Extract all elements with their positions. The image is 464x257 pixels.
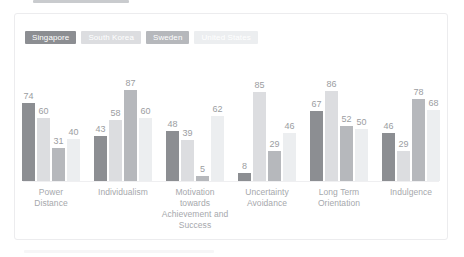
bar-sweden[interactable]: 29 xyxy=(268,59,281,181)
bar-singapore[interactable]: 8 xyxy=(238,59,251,181)
category-axis-label-line: towards xyxy=(180,198,210,208)
bar-united-states[interactable]: 46 xyxy=(283,59,296,181)
bar-group: 74603140PowerDistance xyxy=(15,59,87,239)
bar-group-bars: 46297868 xyxy=(375,59,447,181)
bar-rect xyxy=(238,173,251,181)
bar-sweden[interactable]: 87 xyxy=(124,59,137,181)
bar-group-bars: 74603140 xyxy=(15,59,87,181)
category-axis-label-line: Long Term xyxy=(319,187,359,197)
category-axis-label-line: Orientation xyxy=(318,198,360,208)
bar-value-label: 5 xyxy=(200,165,205,176)
bar-value-label: 68 xyxy=(428,99,438,110)
bar-value-label: 85 xyxy=(254,81,264,92)
bar-value-label: 78 xyxy=(413,88,423,99)
category-axis-label-line: Power xyxy=(39,187,63,197)
bar-united-states[interactable]: 40 xyxy=(67,59,80,181)
category-axis-label-line: Motivation xyxy=(175,187,214,197)
bar-value-label: 86 xyxy=(326,80,336,91)
bar-singapore[interactable]: 46 xyxy=(382,59,395,181)
bar-rect xyxy=(310,111,323,181)
bar-rect xyxy=(325,91,338,181)
bar-south-korea[interactable]: 85 xyxy=(253,59,266,181)
category-axis-label-line: Distance xyxy=(34,198,67,208)
bar-south-korea[interactable]: 86 xyxy=(325,59,338,181)
bar-value-label: 60 xyxy=(38,107,48,118)
legend-item-label: Singapore xyxy=(32,34,69,42)
bar-rect xyxy=(427,110,440,181)
legend-item-united-states[interactable]: United States xyxy=(194,31,257,44)
bar-group: 8852946UncertaintyAvoidance xyxy=(231,59,303,239)
bottom-cutoff-text xyxy=(24,250,214,253)
bar-singapore[interactable]: 43 xyxy=(94,59,107,181)
bar-group: 4839562MotivationtowardsAchievement andS… xyxy=(159,59,231,239)
bar-rect xyxy=(22,103,35,181)
bar-singapore[interactable]: 67 xyxy=(310,59,323,181)
bar-rect xyxy=(37,118,50,181)
bar-group: 46297868Indulgence xyxy=(375,59,447,239)
category-axis-label-line: Success xyxy=(179,220,211,230)
bar-rect xyxy=(52,148,65,181)
legend-item-south-korea[interactable]: South Korea xyxy=(81,31,141,44)
page-root: SingaporeSouth KoreaSwedenUnited States … xyxy=(0,0,464,257)
bar-rect xyxy=(166,131,179,181)
bar-rect xyxy=(211,116,224,181)
legend-item-sweden[interactable]: Sweden xyxy=(146,31,190,44)
bar-value-label: 29 xyxy=(269,140,279,151)
bar-south-korea[interactable]: 60 xyxy=(37,59,50,181)
bar-value-label: 43 xyxy=(95,125,105,136)
category-axis-label-line: Individualism xyxy=(98,187,148,197)
chart-legend: SingaporeSouth KoreaSwedenUnited States xyxy=(25,31,258,44)
bar-south-korea[interactable]: 39 xyxy=(181,59,194,181)
bar-value-label: 62 xyxy=(212,105,222,116)
top-cutoff-sliver xyxy=(33,0,129,3)
bar-group-bars: 8852946 xyxy=(231,59,303,181)
bar-sweden[interactable]: 31 xyxy=(52,59,65,181)
category-axis-label-line: Achievement and xyxy=(162,209,228,219)
legend-item-label: South Korea xyxy=(88,34,134,42)
bar-rect xyxy=(412,99,425,181)
bar-sweden[interactable]: 5 xyxy=(196,59,209,181)
bar-rect xyxy=(397,151,410,181)
bar-united-states[interactable]: 62 xyxy=(211,59,224,181)
category-axis-label-line: Avoidance xyxy=(247,198,287,208)
bar-value-label: 60 xyxy=(140,107,150,118)
bar-singapore[interactable]: 74 xyxy=(22,59,35,181)
bar-united-states[interactable]: 50 xyxy=(355,59,368,181)
bar-value-label: 46 xyxy=(284,122,294,133)
bar-singapore[interactable]: 48 xyxy=(166,59,179,181)
bar-value-label: 87 xyxy=(125,79,135,90)
bar-rect xyxy=(253,92,266,181)
bar-rect xyxy=(181,140,194,181)
bar-value-label: 58 xyxy=(110,109,120,120)
chart-card: SingaporeSouth KoreaSwedenUnited States … xyxy=(14,13,448,240)
bar-group-bars: 67865250 xyxy=(303,59,375,181)
bar-rect xyxy=(124,90,137,181)
bar-sweden[interactable]: 78 xyxy=(412,59,425,181)
bar-rect xyxy=(283,133,296,181)
bar-value-label: 48 xyxy=(167,120,177,131)
bar-united-states[interactable]: 60 xyxy=(139,59,152,181)
bar-value-label: 31 xyxy=(53,137,63,148)
bar-group: 67865250Long TermOrientation xyxy=(303,59,375,239)
bar-value-label: 52 xyxy=(341,115,351,126)
bar-sweden[interactable]: 52 xyxy=(340,59,353,181)
bar-south-korea[interactable]: 29 xyxy=(397,59,410,181)
bar-value-label: 39 xyxy=(182,129,192,140)
legend-item-singapore[interactable]: Singapore xyxy=(25,31,76,44)
chart-plot-area: 74603140PowerDistance43588760Individuali… xyxy=(15,59,447,239)
bar-group-bars: 4839562 xyxy=(159,59,231,181)
bar-value-label: 40 xyxy=(68,128,78,139)
bar-rect xyxy=(196,176,209,181)
bar-united-states[interactable]: 68 xyxy=(427,59,440,181)
bar-group-bars: 43588760 xyxy=(87,59,159,181)
bar-value-label: 67 xyxy=(311,100,321,111)
legend-item-label: United States xyxy=(201,34,250,42)
bar-south-korea[interactable]: 58 xyxy=(109,59,122,181)
bar-value-label: 74 xyxy=(23,92,33,103)
bar-value-label: 29 xyxy=(398,140,408,151)
category-axis-label-line: Indulgence xyxy=(390,187,432,197)
bar-value-label: 8 xyxy=(242,162,247,173)
bar-rect xyxy=(94,136,107,181)
bar-rect xyxy=(382,133,395,181)
bar-rect xyxy=(67,139,80,181)
